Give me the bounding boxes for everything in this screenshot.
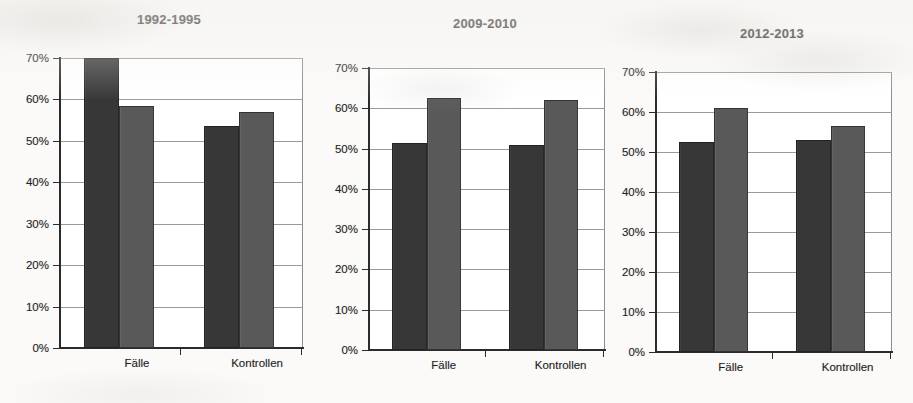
bar-series-b-0: [119, 106, 154, 348]
y-axis-tick-label: 10%: [26, 301, 49, 313]
chart-title: 1992-1995: [137, 12, 201, 27]
gridline-60: [656, 112, 892, 113]
y-axis-tick-label: 40%: [26, 176, 49, 188]
y-axis-tick-label: 70%: [335, 62, 358, 74]
y-axis-tick-label: 0%: [628, 346, 645, 358]
y-axis-line: [59, 57, 61, 349]
bar-series-a-0: [679, 142, 713, 352]
x-axis-tick: [772, 352, 773, 359]
gridline-70: [369, 68, 605, 69]
x-axis-category-label: Fälle: [718, 361, 743, 373]
x-axis-tick: [485, 350, 486, 357]
y-axis-line: [368, 67, 370, 351]
bar-series-a-1: [796, 140, 830, 352]
y-axis-tick-label: 10%: [622, 306, 645, 318]
bar-series-a-1: [204, 126, 239, 348]
x-axis-category-label: Kontrollen: [535, 359, 587, 371]
chart-title: 2012-2013: [740, 26, 804, 41]
bar-series-a-0: [392, 143, 426, 350]
y-axis-tick-label: 20%: [335, 263, 358, 275]
y-axis-tick-label: 70%: [622, 66, 645, 78]
y-axis-tick-label: 20%: [622, 266, 645, 278]
y-axis-tick-label: 20%: [26, 259, 49, 271]
y-axis-tick-label: 70%: [26, 52, 49, 64]
y-axis-tick-label: 60%: [622, 106, 645, 118]
figure-three-panel-bar-charts: 1992-199570%60%50%40%30%20%10%0%FälleKon…: [0, 0, 913, 403]
bar-series-b-0: [714, 108, 748, 352]
plot-area: 70%60%50%40%30%20%10%0%FälleKontrollen: [60, 58, 303, 348]
x-axis-tick: [180, 348, 181, 355]
x-axis-tick: [603, 350, 604, 357]
gridline-70: [656, 72, 892, 73]
y-axis-tick-label: 40%: [335, 183, 358, 195]
y-axis-tick-label: 50%: [335, 143, 358, 155]
plot-area: 70%60%50%40%30%20%10%0%FälleKontrollen: [656, 72, 892, 352]
bar-series-a-1: [509, 145, 543, 350]
bar-series-a-0: [84, 58, 119, 348]
x-axis-tick: [890, 352, 891, 359]
bar-series-b-1: [544, 100, 578, 350]
y-axis-tick-label: 50%: [26, 135, 49, 147]
y-axis-tick-label: 0%: [32, 342, 49, 354]
plot-area: 70%60%50%40%30%20%10%0%FälleKontrollen: [369, 68, 605, 350]
x-axis-category-label: Fälle: [431, 359, 456, 371]
chart-title: 2009-2010: [453, 16, 517, 31]
bar-series-b-1: [239, 112, 274, 348]
x-axis-tick: [301, 348, 302, 355]
y-axis-tick-label: 30%: [26, 218, 49, 230]
bar-series-b-0: [427, 98, 461, 350]
y-axis-line: [655, 71, 657, 353]
y-axis-tick-label: 0%: [341, 344, 358, 356]
y-axis-tick-label: 10%: [335, 304, 358, 316]
y-axis-tick-label: 50%: [622, 146, 645, 158]
x-axis-category-label: Kontrollen: [231, 357, 283, 369]
y-axis-tick-label: 30%: [622, 226, 645, 238]
y-axis-tick-label: 60%: [335, 102, 358, 114]
x-axis-category-label: Kontrollen: [822, 361, 874, 373]
x-axis-category-label: Fälle: [125, 357, 150, 369]
y-axis-tick-label: 60%: [26, 93, 49, 105]
bar-series-b-1: [831, 126, 865, 352]
y-axis-tick-label: 30%: [335, 223, 358, 235]
y-axis-tick-label: 40%: [622, 186, 645, 198]
